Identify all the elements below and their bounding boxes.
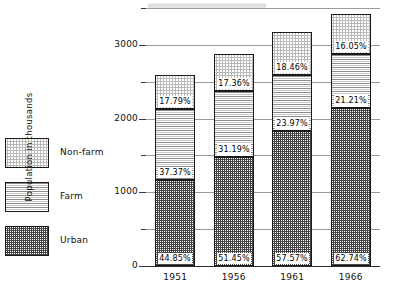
y-axis-tick bbox=[139, 266, 146, 267]
y-axis-tick bbox=[139, 192, 146, 193]
y-axis-tick-label: 0 bbox=[94, 260, 138, 270]
segment-percent-label: 37.37% bbox=[158, 167, 192, 178]
segment-percent-label: 51.45% bbox=[217, 253, 251, 264]
x-axis-label-1951: 1951 bbox=[145, 272, 205, 282]
segment-percent-label: 17.36% bbox=[217, 78, 251, 89]
segment-percent-label: 18.46% bbox=[275, 62, 309, 73]
segment-percent-label: 62.74% bbox=[334, 253, 368, 264]
segment-fill bbox=[332, 109, 370, 265]
y-axis-minor-tick bbox=[141, 8, 146, 9]
x-axis-label-1961: 1961 bbox=[262, 272, 322, 282]
bar-segment-urban[interactable]: 44.85% bbox=[155, 180, 195, 266]
bar-segment-farm[interactable]: 37.37% bbox=[155, 109, 195, 180]
bar-segment-farm[interactable]: 21.21% bbox=[331, 54, 371, 108]
segment-percent-label: 17.79% bbox=[158, 96, 192, 107]
bar-segment-non-farm[interactable]: 16.05% bbox=[331, 14, 371, 54]
plot-area: Population in thousands 0100020003000 44… bbox=[0, 0, 393, 289]
y-axis-minor-tick bbox=[141, 82, 146, 83]
y-axis-tick bbox=[139, 45, 146, 46]
bar-1966[interactable]: 62.74%21.21%16.05% bbox=[331, 0, 371, 266]
x-axis-label-1956: 1956 bbox=[204, 272, 264, 282]
segment-percent-label: 31.19% bbox=[217, 144, 251, 155]
x-axis-label-1966: 1966 bbox=[321, 272, 381, 282]
y-axis-minor-tick bbox=[141, 229, 146, 230]
y-axis-tick-label: 1000 bbox=[94, 186, 138, 196]
segment-percent-label: 23.97% bbox=[275, 118, 309, 129]
chart-root: Non-farm Farm Urban Population in thousa… bbox=[0, 0, 393, 289]
segment-percent-label: 21.21% bbox=[334, 95, 368, 106]
bar-segment-urban[interactable]: 51.45% bbox=[214, 157, 254, 266]
bar-segment-non-farm[interactable]: 18.46% bbox=[272, 32, 312, 75]
segment-percent-label: 57.57% bbox=[275, 253, 309, 264]
bar-segment-non-farm[interactable]: 17.36% bbox=[214, 54, 254, 91]
x-axis-line bbox=[146, 266, 380, 267]
bar-segment-farm[interactable]: 23.97% bbox=[272, 75, 312, 131]
segment-fill bbox=[273, 132, 311, 265]
segment-fill bbox=[215, 158, 253, 265]
bar-segment-non-farm[interactable]: 17.79% bbox=[155, 75, 195, 109]
y-axis-tick-label: 3000 bbox=[94, 39, 138, 49]
bar-1951[interactable]: 44.85%37.37%17.79% bbox=[155, 0, 195, 266]
segment-percent-label: 44.85% bbox=[158, 253, 192, 264]
segment-percent-label: 16.05% bbox=[334, 41, 368, 52]
y-axis-minor-tick bbox=[141, 155, 146, 156]
bar-segment-urban[interactable]: 57.57% bbox=[272, 131, 312, 266]
bar-segment-farm[interactable]: 31.19% bbox=[214, 91, 254, 157]
bar-1961[interactable]: 57.57%23.97%18.46% bbox=[272, 0, 312, 266]
y-axis-title: Population in thousands bbox=[24, 72, 34, 222]
y-axis-tick-label: 2000 bbox=[94, 113, 138, 123]
y-axis-tick bbox=[139, 119, 146, 120]
bar-segment-urban[interactable]: 62.74% bbox=[331, 108, 371, 266]
bar-1956[interactable]: 51.45%31.19%17.36% bbox=[214, 0, 254, 266]
